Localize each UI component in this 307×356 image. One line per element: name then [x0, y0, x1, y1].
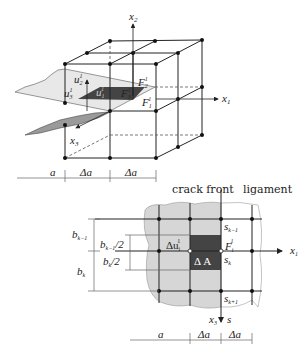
lower-crack-surface: [25, 112, 110, 135]
b-km1-half-label: bk−1/2: [100, 238, 124, 251]
dim-da2-bottom: Δa: [228, 328, 241, 340]
s-kp1-label: sk+1: [224, 292, 238, 305]
b-k-label: bk: [77, 265, 86, 278]
x3-label: x3: [69, 134, 79, 148]
dim-da1-top: Δa: [79, 166, 92, 178]
dA-label: Δ A: [194, 255, 211, 267]
crack-diagram: x2 x1 x3 u21 u31 u11 F21 F31 F11 a Δa Δa: [0, 0, 307, 356]
x3-label-2d: x3: [208, 313, 217, 326]
dim-a-bottom: a: [158, 328, 164, 340]
F3-label: F31: [120, 87, 131, 100]
b-km1-label: bk−1: [72, 228, 87, 241]
x1-label: x1: [221, 92, 230, 106]
s-k-label: sk: [224, 253, 231, 266]
x2-label: x2: [128, 10, 138, 24]
crack-front-label: crack front: [172, 183, 234, 196]
du-label: Δui1: [166, 238, 181, 252]
u2-label: u21: [74, 73, 83, 86]
x1-label-2d: x1: [289, 244, 298, 257]
dim-da2-top: Δa: [124, 166, 137, 178]
u1-label: u11: [96, 86, 105, 99]
bottom-2d-diagram: crack front ligament sk−1 sk sk+1 Fi1 Δu…: [72, 183, 298, 344]
top-3d-diagram: x2 x1 x3 u21 u31 u11 F21 F31 F11 a Δa Δa: [15, 10, 230, 182]
s-axis-label: s: [227, 313, 231, 325]
dim-a-top: a: [50, 166, 56, 178]
u3-label: u31: [64, 87, 73, 100]
ligament-label: ligament: [243, 183, 293, 196]
F2-label: F21: [137, 76, 148, 89]
s-km1-label: sk−1: [224, 220, 238, 233]
dim-da1-bottom: Δa: [197, 328, 210, 340]
F-i-label: Fi1: [224, 238, 234, 253]
F1-label: F11: [141, 96, 152, 109]
b-k-half-label: bk/2: [103, 255, 120, 268]
